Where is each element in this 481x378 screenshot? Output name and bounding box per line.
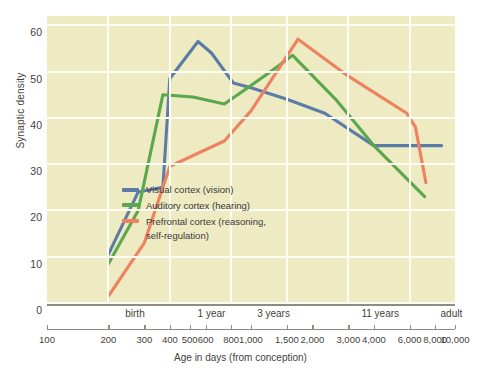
age-band-label: 11 years	[361, 308, 399, 319]
gridline-vertical	[409, 16, 411, 303]
gridline-vertical	[107, 16, 109, 303]
age-band-label: 3 years	[257, 308, 290, 319]
legend-color-swatch	[122, 188, 139, 192]
log-axis-tick	[410, 325, 411, 329]
y-axis-tick-label: 0	[36, 305, 42, 316]
log-axis-tick	[312, 325, 313, 329]
log-axis-tick	[47, 325, 48, 329]
age-band-axis	[47, 304, 455, 306]
log-axis-tick-label: 6,000	[398, 334, 422, 345]
gridline-vertical	[230, 16, 232, 303]
log-axis-tick	[348, 325, 349, 329]
log-axis-tick	[374, 325, 375, 329]
y-axis-tick-label: 30	[30, 166, 42, 177]
gridline-vertical	[169, 16, 171, 303]
log-axis-tick-label: 300	[136, 334, 152, 345]
legend-item-label: Prefrontal cortex (reasoning, self-regul…	[146, 215, 266, 242]
log-axis-tick-label: 1,000	[239, 334, 263, 345]
chart-legend: Visual cortex (vision)Auditory cortex (h…	[122, 183, 266, 245]
log-axis-tick-label: 500	[182, 334, 198, 345]
log-axis-tick-label: 200	[100, 334, 116, 345]
log-axis-tick	[251, 325, 252, 329]
x-axis-label: Age in days (from conception)	[0, 352, 481, 363]
log-axis-tick-label: 400	[162, 334, 178, 345]
log-scale-axis	[47, 329, 455, 330]
plot-area: 0102030405060	[47, 16, 455, 303]
y-axis-tick-label: 20	[30, 212, 42, 223]
log-axis-tick-label: 2,000	[301, 334, 325, 345]
log-axis-tick-label: 10,000	[440, 334, 469, 345]
legend-item[interactable]: Prefrontal cortex (reasoning, self-regul…	[122, 215, 266, 242]
log-axis-tick-label: 600	[198, 334, 214, 345]
gridline-vertical	[286, 16, 288, 303]
y-axis-tick-label: 50	[30, 73, 42, 84]
log-axis-tick	[170, 325, 171, 329]
legend-item[interactable]: Auditory cortex (hearing)	[122, 199, 266, 213]
log-axis-tick	[455, 325, 456, 329]
legend-color-swatch	[122, 219, 139, 223]
log-axis-tick-label: 800	[223, 334, 239, 345]
y-axis-label: Synaptic density	[15, 51, 26, 171]
log-axis-tick-label: 1,500	[275, 334, 299, 345]
log-axis-tick	[435, 325, 436, 329]
log-axis-tick	[190, 325, 191, 329]
log-axis-tick-label: 3,000	[336, 334, 360, 345]
age-band-label: 1 year	[198, 308, 226, 319]
legend-color-swatch	[122, 203, 139, 207]
synaptic-density-chart: Synaptic density 0102030405060 Visual co…	[0, 0, 481, 378]
legend-item-label: Auditory cortex (hearing)	[146, 199, 250, 213]
legend-item-label: Visual cortex (vision)	[146, 183, 233, 197]
legend-item[interactable]: Visual cortex (vision)	[122, 183, 266, 197]
gridline-vertical	[347, 16, 349, 303]
log-axis-tick-label: 4,000	[362, 334, 386, 345]
y-axis-tick-label: 10	[30, 258, 42, 269]
y-axis-tick-label: 60	[30, 27, 42, 38]
log-axis-tick	[144, 325, 145, 329]
age-band-label: birth	[125, 308, 144, 319]
log-axis-tick	[287, 325, 288, 329]
log-axis-tick	[231, 325, 232, 329]
log-axis-tick	[108, 325, 109, 329]
y-axis-tick-label: 40	[30, 120, 42, 131]
age-band-label: adult	[441, 308, 463, 319]
log-axis-tick-label: 100	[39, 334, 55, 345]
log-axis-tick	[206, 325, 207, 329]
